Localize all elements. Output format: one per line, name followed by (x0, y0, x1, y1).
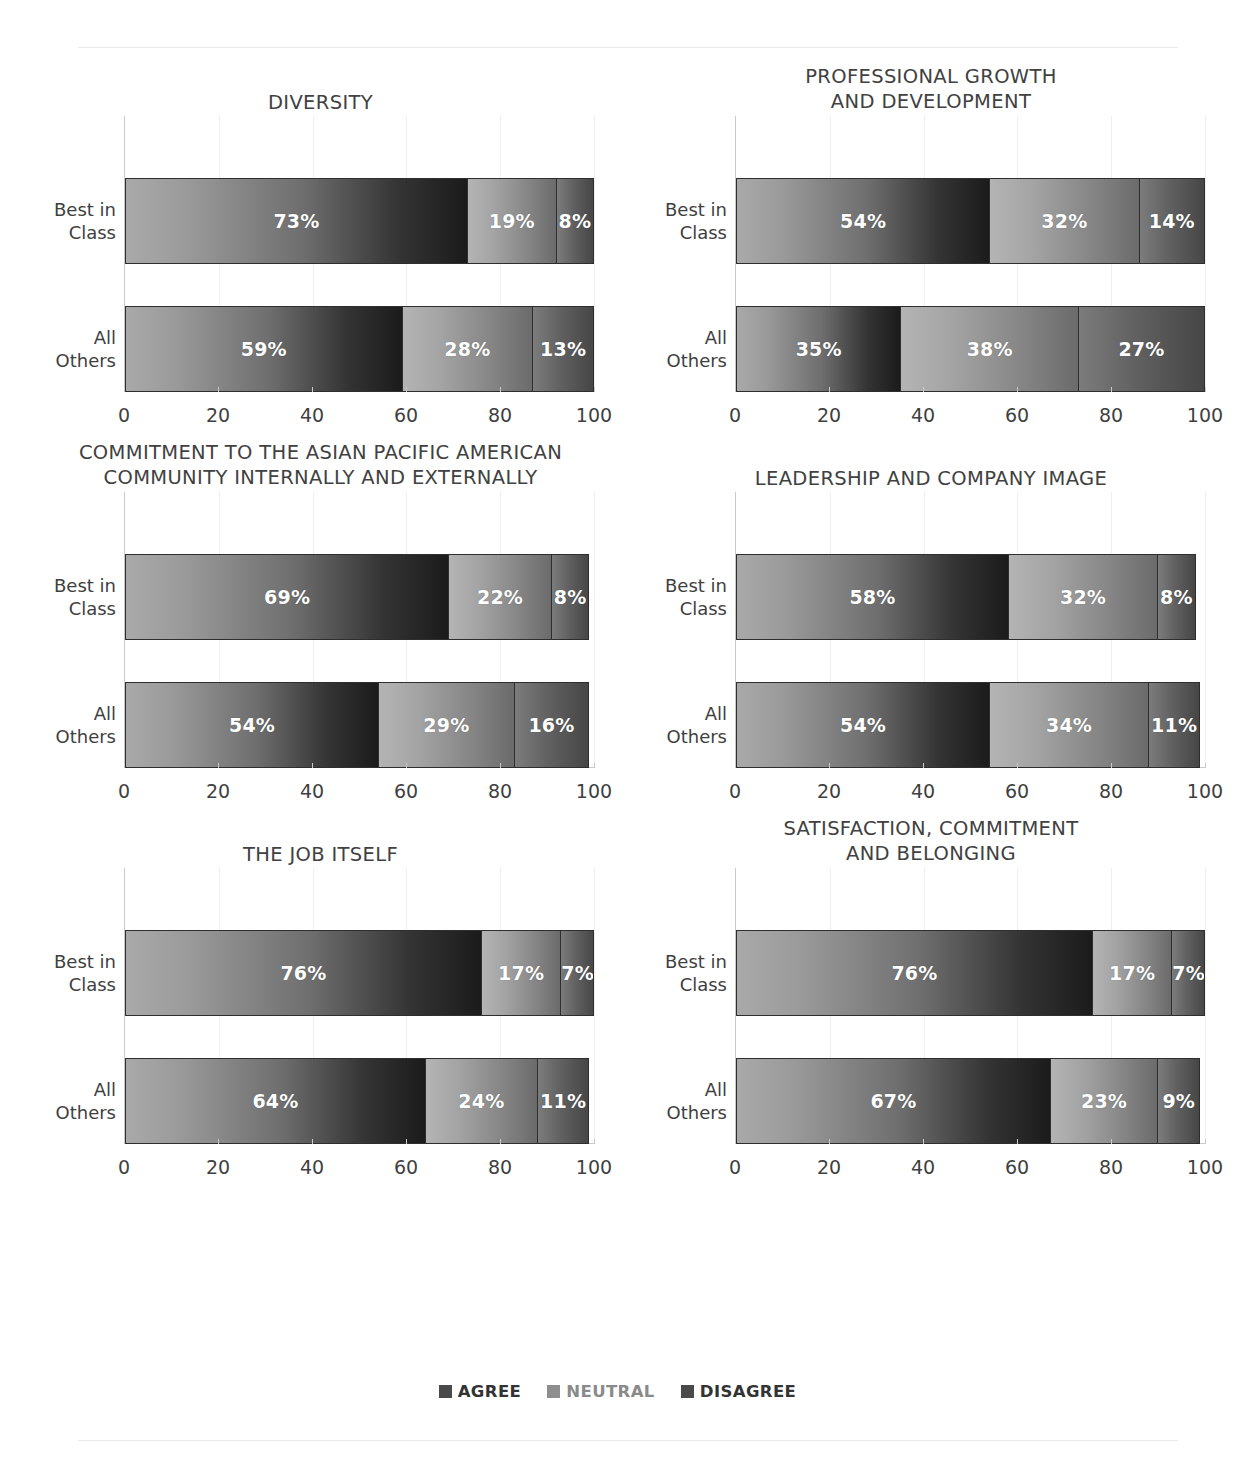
bar-segment-agree: 54% (737, 179, 989, 263)
bar-value-label: 7% (561, 962, 594, 984)
x-tickmark (594, 1139, 595, 1144)
x-axis-labels: 020406080100 (735, 1156, 1205, 1182)
x-axis-tick-label: 80 (488, 1156, 512, 1178)
legend-swatch-icon (681, 1385, 694, 1398)
y-axis-label: All Others (56, 326, 117, 372)
bar-value-label: 13% (540, 338, 586, 360)
bar-segment-disagree: 16% (514, 683, 589, 767)
chart-panel: DIVERSITY73%19%8%59%28%13%Best in ClassA… (0, 60, 617, 436)
bar-segment-neutral: 38% (900, 307, 1077, 391)
plot-area: 76%17%7%67%23%9%Best in ClassAll Others0… (735, 868, 1205, 1188)
bar-value-label: 17% (498, 962, 544, 984)
x-axis-tick-label: 0 (118, 404, 130, 426)
plot-area: 69%22%8%54%29%16%Best in ClassAll Others… (124, 492, 594, 812)
x-axis-tick-label: 40 (300, 404, 324, 426)
x-tickmark (1111, 387, 1112, 392)
x-axis-tick-label: 80 (488, 404, 512, 426)
bar-segment-agree: 67% (737, 1059, 1050, 1143)
legend-item: AGREE (439, 1382, 522, 1401)
x-axis-tick-label: 20 (817, 780, 841, 802)
x-axis-tick-label: 20 (817, 1156, 841, 1178)
bar-value-label: 67% (870, 1090, 916, 1112)
bar-segment-disagree: 8% (556, 179, 593, 263)
x-axis-tick-label: 40 (911, 404, 935, 426)
x-axis-tick-label: 80 (1099, 780, 1123, 802)
x-axis-tick-label: 40 (911, 780, 935, 802)
x-axis-tick-label: 60 (394, 1156, 418, 1178)
x-axis-tick-label: 100 (1187, 1156, 1223, 1178)
chart-title: LEADERSHIP AND COMPANY IMAGE (627, 436, 1235, 492)
x-axis-tick-label: 80 (1099, 404, 1123, 426)
stacked-bar: 73%19%8% (125, 178, 594, 264)
bar-segment-neutral: 17% (1092, 931, 1171, 1015)
x-axis-tick-label: 100 (1187, 404, 1223, 426)
x-tickmark (735, 387, 736, 392)
x-axis-tick-label: 100 (576, 404, 612, 426)
x-axis-tick-label: 100 (1187, 780, 1223, 802)
y-axis-label: Best in Class (54, 198, 116, 244)
bar-segment-neutral: 17% (481, 931, 560, 1015)
x-axis-tick-label: 20 (206, 780, 230, 802)
bar-value-label: 19% (489, 210, 535, 232)
y-axis-label: All Others (667, 1078, 728, 1124)
y-axis-labels: Best in ClassAll Others (26, 116, 116, 392)
x-axis-labels: 020406080100 (124, 404, 594, 430)
legend-label: NEUTRAL (566, 1382, 655, 1401)
bar-segment-neutral: 34% (989, 683, 1148, 767)
chart-row: THE JOB ITSELF76%17%7%64%24%11%Best in C… (0, 812, 1235, 1188)
x-tickmark (218, 763, 219, 768)
bar-value-label: 76% (280, 962, 326, 984)
bar-segment-agree: 54% (737, 683, 989, 767)
x-axis-tick-label: 20 (206, 404, 230, 426)
bar-segment-neutral: 22% (448, 555, 551, 639)
x-tickmark (1111, 1139, 1112, 1144)
bar-value-label: 54% (840, 210, 886, 232)
stacked-bar: 76%17%7% (736, 930, 1205, 1016)
x-axis-tick-label: 60 (1005, 780, 1029, 802)
bar-value-label: 32% (1041, 210, 1087, 232)
bar-value-label: 73% (273, 210, 319, 232)
x-tickmark (500, 387, 501, 392)
bar-segment-disagree: 11% (537, 1059, 588, 1143)
bottom-divider (78, 1440, 1178, 1441)
x-axis-tick-label: 40 (300, 1156, 324, 1178)
x-tickmark (1017, 763, 1018, 768)
bar-segment-disagree: 7% (1171, 931, 1205, 1015)
x-tickmark (1205, 763, 1206, 768)
bar-value-label: 22% (477, 586, 523, 608)
x-tickmark (923, 1139, 924, 1144)
bar-value-label: 17% (1109, 962, 1155, 984)
bar-segment-neutral: 24% (425, 1059, 537, 1143)
y-axis-label: All Others (667, 326, 728, 372)
y-axis-label: All Others (56, 702, 117, 748)
stacked-bar: 54%32%14% (736, 178, 1205, 264)
bar-value-label: 11% (540, 1090, 586, 1112)
stacked-bar: 54%34%11% (736, 682, 1200, 768)
bar-value-label: 59% (241, 338, 287, 360)
bar-segment-agree: 76% (126, 931, 481, 1015)
stacked-bar: 76%17%7% (125, 930, 594, 1016)
y-axis-label: Best in Class (54, 574, 116, 620)
bar-segment-agree: 73% (126, 179, 467, 263)
y-axis-label: Best in Class (665, 950, 727, 996)
stacked-bar: 35%38%27% (736, 306, 1205, 392)
chart-panel: LEADERSHIP AND COMPANY IMAGE58%32%8%54%3… (617, 436, 1235, 812)
x-tickmark (312, 1139, 313, 1144)
bar-value-label: 8% (554, 586, 587, 608)
x-tickmark (594, 763, 595, 768)
plot-area: 58%32%8%54%34%11%Best in ClassAll Others… (735, 492, 1205, 812)
x-tickmark (312, 763, 313, 768)
x-axis-labels: 020406080100 (735, 404, 1205, 430)
axes: 54%32%14%35%38%27% (735, 116, 1205, 392)
x-tickmark (923, 763, 924, 768)
gridline (594, 492, 595, 767)
axes: 76%17%7%64%24%11% (124, 868, 594, 1144)
y-axis-label: All Others (56, 1078, 117, 1124)
x-axis-tick-label: 0 (118, 780, 130, 802)
x-axis-tick-label: 60 (1005, 404, 1029, 426)
bar-value-label: 34% (1046, 714, 1092, 736)
bar-value-label: 38% (967, 338, 1013, 360)
gridline (1205, 868, 1206, 1143)
y-axis-labels: Best in ClassAll Others (26, 492, 116, 768)
bar-segment-disagree: 9% (1157, 1059, 1199, 1143)
